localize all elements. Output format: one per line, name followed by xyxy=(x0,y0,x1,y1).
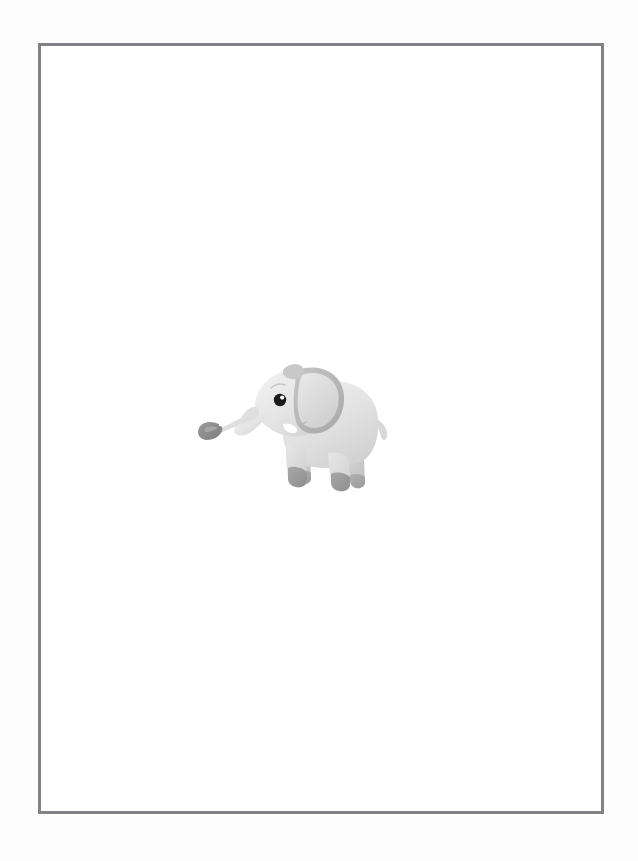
page-canvas: Baby Elephant xyxy=(0,0,638,861)
trunk-tip xyxy=(198,422,222,440)
border-frame: Baby Elephant xyxy=(38,43,604,814)
hind-leg-near xyxy=(328,452,350,491)
front-leg-near xyxy=(286,443,307,487)
head-crown xyxy=(283,364,304,379)
elephant-illustration: Baby Elephant xyxy=(197,356,405,496)
eye xyxy=(274,394,286,406)
elephant-svg xyxy=(197,356,405,496)
